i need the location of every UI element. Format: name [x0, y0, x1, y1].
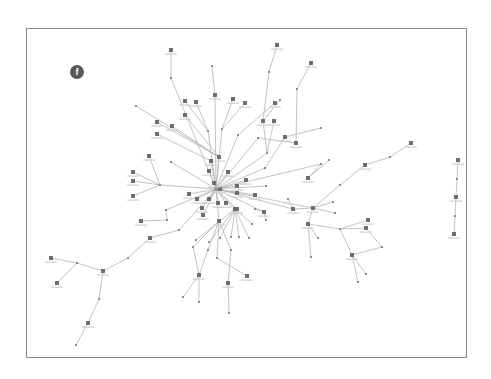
graph-edge	[455, 197, 456, 216]
graph-node	[363, 163, 367, 167]
node-label-placeholder	[51, 287, 63, 288]
graph-node	[148, 236, 152, 240]
graph-node	[183, 113, 187, 117]
node-label-placeholder	[268, 125, 280, 126]
graph-edge	[263, 121, 267, 153]
graph-node	[55, 281, 59, 285]
graph-node	[170, 124, 174, 128]
graph-node	[197, 273, 201, 277]
graph-node	[135, 105, 137, 107]
node-label-placeholder	[143, 160, 155, 161]
graph-node	[365, 273, 367, 275]
graph-edge	[166, 210, 167, 220]
graph-edge	[76, 323, 88, 345]
node-label-placeholder	[222, 287, 234, 288]
graph-edge	[216, 189, 313, 208]
graph-edge	[366, 228, 382, 247]
graph-node	[268, 71, 270, 73]
graph-node	[235, 184, 239, 188]
graph-node	[166, 219, 168, 221]
graph-node	[201, 213, 205, 217]
graph-node	[228, 312, 230, 314]
graph-edge	[340, 165, 365, 185]
graph-node	[350, 253, 354, 257]
graph-edge	[352, 247, 382, 255]
graph-node	[195, 197, 199, 201]
graph-node	[217, 155, 221, 159]
graph-node	[409, 141, 413, 145]
node-label-placeholder	[302, 228, 314, 229]
node-label-placeholder	[213, 225, 225, 226]
graph-node	[306, 176, 310, 180]
node-label-placeholder	[231, 197, 243, 198]
graph-node	[291, 207, 295, 211]
graph-edge	[179, 189, 216, 230]
node-label-placeholder	[359, 169, 371, 170]
graph-node	[207, 169, 211, 173]
graph-edge	[216, 157, 219, 189]
node-label-placeholder	[307, 212, 319, 213]
graph-node	[339, 184, 341, 186]
graph-node	[170, 161, 172, 163]
node-label-placeholder	[183, 198, 195, 199]
graph-node	[194, 100, 198, 104]
node-label-placeholder	[208, 187, 220, 188]
node-label-placeholder	[127, 176, 139, 177]
node-label-placeholder	[214, 193, 226, 194]
graph-node	[264, 167, 266, 169]
network-graph	[0, 0, 491, 379]
graph-edge	[308, 160, 329, 178]
node-label-placeholder	[213, 161, 225, 162]
graph-node	[320, 163, 322, 165]
graph-node	[183, 99, 187, 103]
graph-edge	[212, 66, 215, 95]
graph-node	[334, 212, 336, 214]
graph-node	[364, 226, 368, 230]
node-label-placeholder	[203, 203, 215, 204]
panel-label-badge: f	[70, 65, 84, 79]
graph-node	[279, 99, 281, 101]
graph-node	[49, 256, 53, 260]
graph-node	[187, 192, 191, 196]
graph-node	[213, 93, 217, 97]
node-label-placeholder	[360, 232, 372, 233]
node-label-placeholder	[196, 212, 208, 213]
graph-node	[272, 119, 276, 123]
node-label-placeholder	[127, 185, 139, 186]
graph-edge	[296, 89, 297, 143]
graph-node	[311, 206, 315, 210]
node-label-placeholder	[249, 199, 261, 200]
node-label-placeholder	[240, 184, 252, 185]
graph-edge	[293, 208, 313, 209]
node-label-placeholder	[144, 242, 156, 243]
node-label-placeholder	[205, 165, 217, 166]
graph-node	[245, 274, 249, 278]
graph-node	[257, 137, 259, 139]
node-label-placeholder	[290, 147, 302, 148]
node-label-placeholder	[222, 176, 234, 177]
graph-node	[209, 159, 213, 163]
graph-edge	[103, 258, 128, 271]
graph-edge	[217, 258, 247, 276]
node-label-placeholder	[305, 67, 317, 68]
node-label-placeholder	[220, 207, 232, 208]
node-label-placeholder	[287, 213, 299, 214]
graph-node	[381, 246, 383, 248]
graph-node	[389, 156, 391, 158]
node-label-placeholder	[179, 105, 191, 106]
graph-node	[251, 223, 253, 225]
node-label-placeholder	[257, 125, 269, 126]
node-label-placeholder	[127, 200, 139, 201]
node-label-placeholder	[241, 280, 253, 281]
graph-node	[198, 301, 200, 303]
graph-node	[294, 141, 298, 145]
graph-edge	[88, 299, 99, 323]
graph-edge	[457, 160, 458, 179]
graph-node	[456, 178, 458, 180]
graph-node	[266, 152, 268, 154]
graph-node	[273, 101, 277, 105]
graph-edge	[238, 103, 275, 135]
graph-edge	[128, 238, 150, 258]
graph-edge	[136, 106, 219, 157]
graph-edge	[157, 122, 219, 157]
